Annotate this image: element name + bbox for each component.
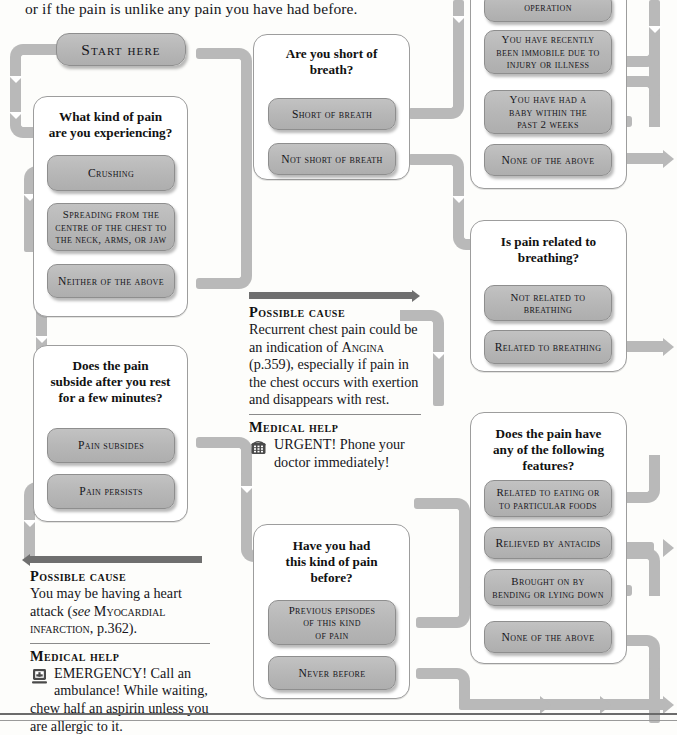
answer-pain-persists[interactable]: Pain persists (47, 474, 175, 509)
answer-neither-of-the-above[interactable]: Neither of the above (47, 264, 175, 298)
answer-pain-subsides[interactable]: Pain subsides (47, 428, 175, 463)
answer-recently-immobile[interactable]: You have recentlybeen immobile due toinj… (484, 30, 612, 74)
arrow-right-icon (600, 696, 611, 714)
answer-spreading[interactable]: Spreading from thecentre of the chest to… (47, 203, 175, 251)
connector-spine-5 (241, 92, 252, 252)
chevron-down-icon (9, 112, 23, 119)
ambulance-icon (30, 666, 50, 691)
connector-spine-6 (453, 0, 464, 72)
question-title-breathing: Is pain related tobreathing? (479, 234, 618, 266)
chevron-down-icon (432, 352, 446, 359)
panel-bar-arrow-icon (412, 290, 420, 302)
connector-sob-elbow (420, 66, 464, 119)
connector-features-in-nub (414, 498, 438, 509)
chevron-down-icon (35, 336, 49, 343)
answer-crushing[interactable]: Crushing (47, 155, 175, 191)
chevron-down-icon (23, 520, 37, 527)
panel-bar (249, 292, 413, 299)
question-title-short-of-breath: Are you short ofbreath? (262, 46, 401, 78)
arrow-right-icon (663, 696, 674, 714)
angina-medical-help-text: URGENT! Phone your doctor immediately! (249, 436, 421, 471)
answer-operation[interactable]: operation (484, 0, 612, 22)
panel-bar-arrow-icon (22, 554, 30, 566)
chevron-down-icon (452, 196, 466, 203)
heart-medical-help-text: EMERGENCY! Call an ambulance! While wait… (30, 665, 210, 735)
question-title-pain-subside: Does the painsubside after you restfor a… (42, 358, 179, 406)
start-here-button[interactable]: Start here (56, 33, 186, 66)
page-bottom-rule (0, 713, 677, 715)
connector-right-spine (649, 0, 660, 96)
answer-relieved-by-antacids[interactable]: Relieved by antacids (484, 527, 612, 559)
arrow-right-icon (663, 338, 674, 356)
panel-divider (30, 643, 210, 644)
connector-q3-nub (196, 48, 220, 59)
connector-never-out (459, 699, 665, 710)
answer-previous-episodes[interactable]: Previous episodesof this kindof pain (268, 600, 396, 645)
answer-risk-none-of-the-above[interactable]: None of the above (484, 144, 612, 176)
chevron-down-icon (452, 16, 466, 23)
telephone-icon (249, 437, 268, 461)
angina-medical-help-heading: Medical help (249, 419, 421, 436)
answer-short-of-breath[interactable]: Short of breath (268, 98, 396, 130)
panel-divider (249, 414, 421, 415)
heart-possible-cause-text: You may be having a heart attack (see My… (30, 585, 210, 638)
panel-bar (30, 556, 202, 563)
page-bottom-rule-2 (0, 720, 677, 721)
chevron-down-icon (9, 76, 23, 83)
angina-possible-cause-heading: Possible cause (249, 304, 421, 321)
heart-possible-cause-heading: Possible cause (30, 568, 210, 585)
answer-baby-past-2-weeks[interactable]: You have had ababy within thepast 2 week… (484, 90, 612, 134)
answer-features-none-of-the-above[interactable]: None of the above (484, 621, 612, 653)
chevron-down-icon (648, 26, 662, 33)
answer-never-before[interactable]: Never before (268, 656, 396, 690)
question-title-pain-before: Have you hadthis kind of painbefore? (262, 538, 401, 586)
intro-text: or if the pain is unlike any pain you ha… (25, 0, 358, 19)
angina-possible-cause-text: Recurrent chest pain could be an indicat… (249, 321, 421, 409)
question-title-pain-kind: What kind of painare you experiencing? (42, 109, 179, 141)
arrow-right-icon (540, 696, 551, 714)
question-title-pain-features: Does the pain haveany of the followingfe… (479, 426, 618, 474)
answer-related-to-breathing[interactable]: Related to breathing (484, 330, 612, 364)
arrow-right-icon (663, 150, 674, 168)
answer-brought-on-by-bending[interactable]: Brought on bybending or lying down (484, 569, 612, 606)
heart-medical-help-heading: Medical help (30, 648, 210, 665)
arrow-right-icon (663, 539, 674, 557)
answer-related-to-eating[interactable]: Related to eating orto particular foods (484, 480, 612, 517)
connector-prev-spine (459, 540, 470, 588)
answer-not-related-to-breathing[interactable]: Not related tobreathing (484, 285, 612, 321)
answer-not-short-of-breath[interactable]: Not short of breath (268, 143, 396, 175)
chevron-down-icon (240, 486, 254, 493)
